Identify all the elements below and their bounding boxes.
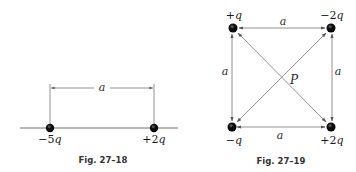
charge-label-plus-q: +q [226, 9, 242, 22]
diagram-canvas: a −5q +2q Fig. 27–18 +q −2q −q +2q a a a… [0, 0, 356, 172]
figure-caption: Fig. 27–18 [79, 155, 128, 165]
figure-caption: Fig. 27–19 [257, 156, 306, 166]
distance-label: a [99, 81, 106, 94]
side-label-top: a [280, 15, 287, 28]
charge-label-minus-2q: −2q [320, 9, 343, 22]
charge-label-plus-2q: +2q [320, 134, 343, 147]
charge-point-bottom-right [327, 123, 336, 132]
charge-label-minus-5q: −5q [38, 133, 61, 146]
point-p-label: P [289, 73, 299, 87]
charge-label-plus-2q: +2q [142, 133, 165, 146]
figure-27-19: +q −2q −q +2q a a a a P Fig. 27–19 [222, 9, 344, 166]
charge-point-left [46, 124, 54, 132]
figure-27-18: a −5q +2q Fig. 27–18 [20, 81, 178, 165]
charge-point-bottom-left [228, 123, 237, 132]
charge-point-top-left [229, 24, 238, 33]
side-label-bottom: a [277, 129, 284, 142]
side-label-right: a [335, 65, 342, 78]
charge-point-top-right [327, 24, 336, 33]
charge-point-right [150, 124, 158, 132]
side-label-left: a [222, 65, 229, 78]
charge-label-minus-q: −q [226, 134, 242, 147]
